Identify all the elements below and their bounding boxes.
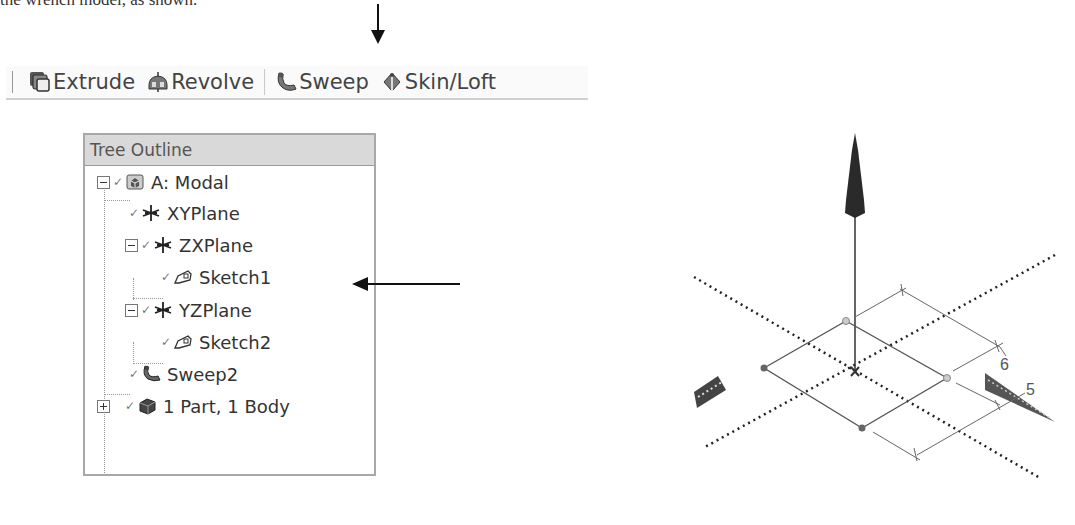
skin-loft-button[interactable]: Skin/Loft [375,68,502,96]
tree-item-zxplane[interactable]: ✓ ZXPlane [125,230,253,260]
extrude-label: Extrude [53,70,135,94]
tree-item-parts-bodies[interactable]: ✓ 1 Part, 1 Body [97,391,290,421]
check-icon: ✓ [125,399,135,413]
tree-item-sweep2[interactable]: ✓ Sweep2 [129,359,238,389]
sketch-vertex [843,318,850,325]
tree-item-model[interactable]: ✓ A: Modal [97,167,229,197]
dimension-label-6[interactable]: 6 [1000,356,1009,373]
dim-extension-line [855,288,906,317]
check-icon: ✓ [113,175,123,189]
check-icon: ✓ [141,303,151,317]
revolve-icon [147,71,169,93]
pointer-arrow-sketch1-head [352,277,368,291]
axis-cone-highlight [988,380,1050,418]
sweep-icon [141,365,161,383]
tree-item-label: Sweep2 [167,364,238,385]
axis-cone-icon [694,376,726,408]
tree-item-yzplane[interactable]: ✓ YZPlane [125,295,252,325]
plane-icon [153,301,173,319]
sketch-vertex [944,375,951,382]
feature-toolbar: Extrude Revolve Sweep [6,66,588,100]
pointer-arrow-sweep-head [371,30,385,44]
check-icon: ✓ [161,270,171,284]
extrude-icon [29,71,51,93]
tree-item-label: YZPlane [179,300,252,321]
expand-toggle[interactable] [97,400,110,413]
revolve-button[interactable]: Revolve [141,68,260,96]
sweep-label: Sweep [299,70,369,94]
skin-loft-icon [381,71,403,93]
sketch-icon [173,333,193,351]
tree-item-label: ZXPlane [179,235,253,256]
toolbar-grip[interactable] [12,71,15,93]
tree-item-label: Sketch1 [199,267,271,288]
revolve-label: Revolve [171,70,254,94]
sketch-vertex [859,425,866,432]
tree-connector [104,183,105,473]
collapse-toggle[interactable] [125,239,138,252]
check-icon: ✓ [129,367,139,381]
caption-text: the wrench model, as shown. [0,0,197,10]
graphics-viewport[interactable]: 6 5 [660,110,1075,525]
tree-item-sketch1[interactable]: ✓ Sketch1 [161,262,271,292]
extrude-button[interactable]: Extrude [23,68,141,96]
dim-extension-line [873,432,920,460]
collapse-toggle[interactable] [125,304,138,317]
body-icon [137,397,157,415]
check-icon: ✓ [161,335,171,349]
dim-extension-line [953,343,1003,371]
tree-item-xyplane[interactable]: ✓ XYPlane [129,198,240,228]
pointer-arrow-sketch1 [366,283,460,285]
tree-item-label: 1 Part, 1 Body [163,396,290,417]
tree-item-label: A: Modal [151,172,229,193]
dim-leader [1000,347,1006,356]
toolbar-divider [264,69,265,95]
check-icon: ✓ [129,206,139,220]
sketch-icon [173,268,193,286]
collapse-toggle[interactable] [97,176,110,189]
sweep-button[interactable]: Sweep [269,68,375,96]
check-icon: ✓ [141,238,151,252]
model-icon [125,173,145,191]
dim-line-6 [900,289,1000,347]
dim-tick [914,448,917,461]
tree-item-label: Sketch2 [199,332,271,353]
plane-icon [141,204,161,222]
skin-loft-label: Skin/Loft [405,70,496,94]
tree-item-sketch2[interactable]: ✓ Sketch2 [161,327,271,357]
dim-line-5 [917,393,1025,455]
tree-connector [104,200,130,201]
plane-icon [153,236,173,254]
axis-y-arrow-icon [845,133,865,218]
sketch-vertex [761,365,768,372]
dimension-label-5[interactable]: 5 [1026,381,1035,398]
tree-outline-title: Tree Outline [85,135,374,166]
sweep-icon [275,71,297,93]
tree-item-label: XYPlane [167,203,240,224]
tree-outline-panel: Tree Outline ✓ A: Modal ✓ XYPlane [83,133,376,476]
